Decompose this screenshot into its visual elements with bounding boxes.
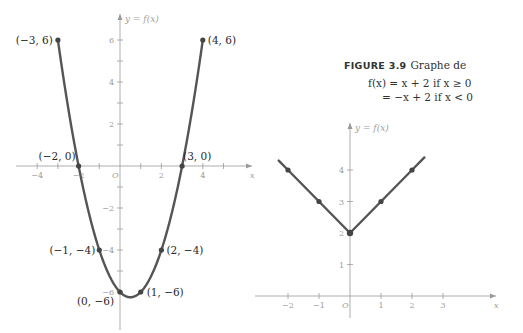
data-point xyxy=(285,167,290,172)
x-tick-label: −2 xyxy=(282,301,294,310)
data-point xyxy=(76,163,81,168)
point-label: (0, −6) xyxy=(77,295,114,307)
y-tick-label: −2 xyxy=(102,204,114,213)
equation-line-1: f(x) = x + 2 if x ≥ 0 xyxy=(368,77,472,89)
point-label: (2, −4) xyxy=(166,244,203,256)
data-point xyxy=(117,289,122,294)
data-point xyxy=(347,230,353,236)
point-label: (−2, 0) xyxy=(39,150,76,162)
data-point xyxy=(180,163,185,168)
parabola-chart: −4−224642−2−4−6Oxy = f(x)(−3, 6)(4, 6)(−… xyxy=(16,14,255,330)
point-label: (−1, −4) xyxy=(49,244,95,256)
x-tick-label: −1 xyxy=(313,301,325,310)
data-point xyxy=(316,199,321,204)
x-tick-label: 3 xyxy=(440,301,445,310)
x-axis-arrow-icon xyxy=(246,164,252,169)
figure-label: FIGURE 3.9 xyxy=(344,60,406,71)
v-shape-curve xyxy=(279,157,425,233)
parabola-curve xyxy=(58,40,203,297)
x-tick-label: 2 xyxy=(159,171,164,180)
x-axis-label: x xyxy=(250,171,255,180)
figure-canvas: −4−224642−2−4−6Oxy = f(x)(−3, 6)(4, 6)(−… xyxy=(0,0,523,333)
x-axis-label: x xyxy=(494,301,499,310)
x-axis-arrow-icon xyxy=(490,294,496,299)
x-tick-label: 4 xyxy=(200,171,205,180)
x-tick-label: 2 xyxy=(409,301,414,310)
figure-caption-text: Graphe de xyxy=(410,59,466,71)
y-tick-label: 2 xyxy=(339,229,344,238)
data-point xyxy=(409,167,414,172)
y-tick-label: 2 xyxy=(109,120,114,129)
data-point xyxy=(138,289,143,294)
x-tick-label: −4 xyxy=(31,171,43,180)
point-label: (−3, 6) xyxy=(16,34,53,46)
y-tick-label: 4 xyxy=(109,78,114,87)
y-axis-label: y = f(x) xyxy=(354,123,389,133)
point-label: (1, −6) xyxy=(147,286,184,298)
point-label: (3, 0) xyxy=(183,150,211,162)
y-axis-label: y = f(x) xyxy=(124,14,159,24)
figure-caption: FIGURE 3.9Graphe de xyxy=(344,59,466,71)
data-point xyxy=(378,199,383,204)
y-tick-label: −4 xyxy=(102,246,114,255)
y-tick-label: 3 xyxy=(339,198,344,207)
absolute-value-chart: −2−11231234Oxy = f(x) xyxy=(255,123,499,318)
y-tick-label: 1 xyxy=(339,261,344,270)
origin-label: O xyxy=(342,301,349,310)
y-axis-arrow-icon xyxy=(348,123,353,129)
origin-label: O xyxy=(112,171,119,180)
data-point xyxy=(97,247,102,252)
y-tick-label: 6 xyxy=(109,36,114,45)
data-point xyxy=(159,247,164,252)
data-point xyxy=(200,37,205,42)
y-tick-label: 4 xyxy=(339,166,344,175)
x-tick-label: 1 xyxy=(378,301,383,310)
y-axis-arrow-icon xyxy=(118,14,123,20)
equation-line-2: = −x + 2 if x < 0 xyxy=(382,91,473,103)
point-label: (4, 6) xyxy=(208,34,236,46)
data-point xyxy=(55,37,60,42)
x-tick-label: −2 xyxy=(73,171,85,180)
